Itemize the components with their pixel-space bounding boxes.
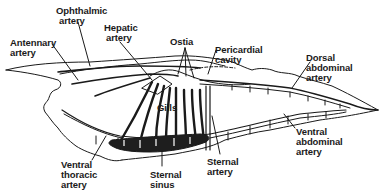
- label-pericardial-cavity: Pericardial cavity: [215, 45, 263, 65]
- label-ventral-abdominal-artery: Ventral abdominal artery: [296, 127, 343, 157]
- label-antennary-artery: Antennary artery: [10, 38, 56, 58]
- leader-sternal-artery: [212, 116, 220, 154]
- circulatory-diagram: Ophthalmic artery Antennary artery Hepat…: [0, 0, 386, 193]
- leader-hepatic: [120, 42, 152, 80]
- leader-ophthalmic: [78, 22, 90, 66]
- label-gills: Gills: [157, 103, 177, 113]
- label-dorsal-abdominal-artery: Dorsal abdominal artery: [306, 53, 353, 83]
- rostrum-underside: [6, 70, 122, 161]
- label-ostia: Ostia: [170, 37, 193, 47]
- label-sternal-artery: Sternal artery: [207, 157, 239, 177]
- label-ophthalmic-artery: Ophthalmic artery: [56, 6, 107, 26]
- leader-ostia: [178, 48, 194, 78]
- label-sternal-sinus: Sternal sinus: [150, 170, 182, 190]
- antennary-artery-line: [72, 74, 178, 84]
- diagram-drawing: [0, 0, 386, 193]
- label-hepatic-artery: Hepatic artery: [104, 23, 138, 43]
- leader-ventral-thoracic: [92, 136, 106, 160]
- label-ventral-thoracic-artery: Ventral thoracic artery: [61, 160, 97, 190]
